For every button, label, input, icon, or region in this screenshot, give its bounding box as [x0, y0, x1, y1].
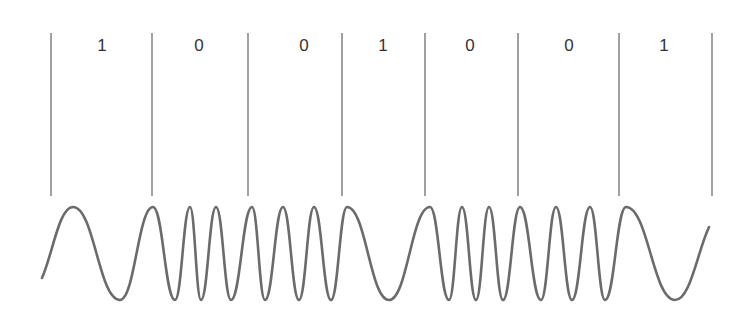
bit-label-6: 0	[564, 36, 573, 55]
bit-label-1: 1	[97, 36, 106, 55]
bit-labels: 1 0 0 1 0 0 1	[97, 36, 668, 55]
bit-label-2: 0	[194, 36, 203, 55]
bit-label-4: 1	[378, 36, 387, 55]
bit-label-7: 1	[659, 36, 668, 55]
fsk-diagram: 1 0 0 1 0 0 1	[0, 0, 747, 328]
bit-label-5: 0	[465, 36, 474, 55]
bit-dividers	[51, 33, 712, 196]
bit-label-3: 0	[299, 36, 308, 55]
modulated-waveform	[42, 207, 709, 300]
